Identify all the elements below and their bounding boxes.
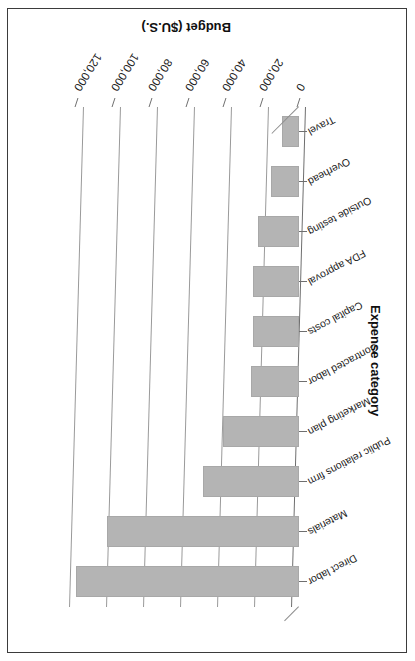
value-axis-tick	[149, 98, 153, 107]
bar	[223, 417, 299, 448]
value-axis-tick	[260, 98, 264, 107]
bar	[253, 317, 299, 348]
category-axis-tick	[299, 132, 307, 133]
bar	[251, 367, 299, 398]
plot-area	[59, 107, 299, 607]
category-axis-tick-label: Contracted labor	[306, 333, 396, 389]
bar	[253, 267, 299, 298]
bar	[271, 167, 299, 198]
category-axis-tick	[299, 382, 307, 383]
category-axis-tick	[299, 482, 307, 483]
value-axis-tick	[223, 98, 227, 107]
category-axis-tick	[299, 182, 307, 183]
bar	[203, 467, 299, 498]
category-axis-tick-label: FDA approval	[306, 233, 396, 289]
category-axis-tick-label: Overhead	[306, 133, 396, 189]
category-axis-tick-label: Capital costs	[306, 283, 396, 339]
rotated-chart-container: Budget ($U.S.) Expense category 020,0004…	[7, 8, 407, 653]
gridline	[69, 107, 84, 607]
value-axis-tick	[186, 98, 190, 107]
depth-line-top	[284, 606, 299, 621]
category-axis-tick-label: Outside testing	[306, 183, 396, 239]
bar	[76, 567, 299, 598]
chart-page: Budget ($U.S.) Expense category 020,0004…	[0, 0, 415, 661]
category-axis-tick-label: Travel	[306, 83, 396, 139]
category-axis-tick	[299, 332, 307, 333]
bar	[258, 217, 299, 248]
category-axis-tick	[299, 432, 307, 433]
category-axis-tick	[299, 232, 307, 233]
category-axis-tick	[299, 582, 307, 583]
value-axis-tick	[112, 98, 116, 107]
category-axis-tick	[299, 282, 307, 283]
bar	[282, 117, 299, 148]
bar	[107, 517, 299, 548]
category-axis-tick-label: Public relations firm	[306, 433, 396, 489]
category-axis-tick-label: Marketing plan	[306, 383, 396, 439]
category-axis-tick-label: Direct labor	[306, 533, 396, 589]
category-axis-tick	[299, 532, 307, 533]
category-axis-tick-label: Materials	[306, 483, 396, 539]
bar-chart: Budget ($U.S.) Expense category 020,0004…	[7, 8, 407, 653]
value-axis-tick	[75, 98, 79, 107]
